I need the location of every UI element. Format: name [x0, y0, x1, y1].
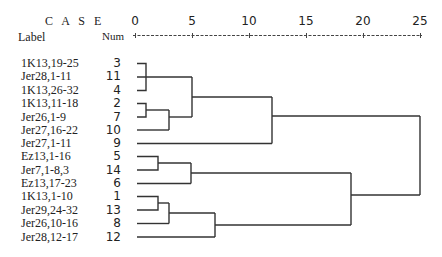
tree-branches: [137, 64, 420, 238]
dendrogram: [0, 0, 442, 257]
distance-axis: [133, 33, 422, 38]
